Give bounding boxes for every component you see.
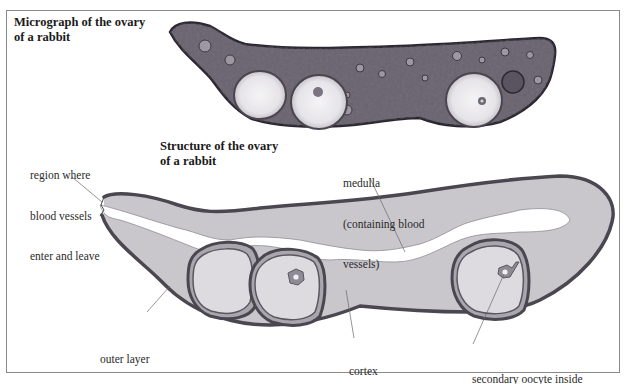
label-line: cortex — [349, 365, 429, 379]
label-blood-vessel-region: region where blood vessels enter and lea… — [30, 142, 100, 277]
primary-follicle-2 — [250, 249, 325, 325]
label-line: secondary oocyte inside — [472, 373, 583, 384]
label-line: enter and leave — [30, 250, 100, 264]
primary-follicle-1 — [188, 242, 259, 318]
label-cortex: cortex (containing primary follicles) — [349, 338, 429, 384]
label-line: (containing blood — [343, 218, 424, 232]
label-line: medulla — [343, 177, 424, 191]
label-line: blood vessels — [30, 210, 100, 224]
micrograph-image — [170, 23, 555, 129]
label-line: vessels) — [343, 258, 424, 272]
label-line: outer layer — [100, 353, 173, 367]
label-line: region where — [30, 169, 100, 183]
label-secondary-oocyte: secondary oocyte inside a mature follicl… — [472, 346, 583, 384]
mature-follicle — [452, 240, 529, 320]
label-medulla: medulla (containing blood vessels) — [343, 150, 424, 285]
label-outer-layer: outer layer of germinal epithelium cells — [100, 326, 173, 384]
